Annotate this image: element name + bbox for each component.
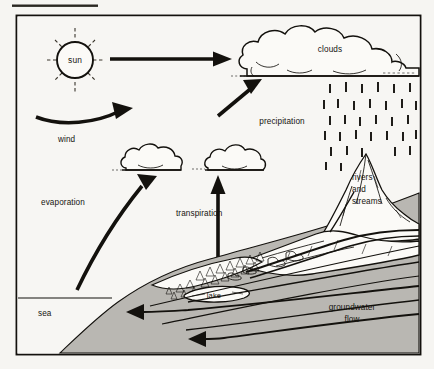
streams-label: streams (352, 197, 382, 206)
flow-label: flow (345, 315, 360, 324)
clouds-label: clouds (318, 45, 342, 54)
top-rule (12, 5, 98, 7)
sun-label: sun (68, 55, 82, 65)
and-label: and (352, 185, 366, 194)
groundwater-label: groundwater (329, 303, 376, 312)
sea-label: sea (38, 309, 52, 318)
wind-label: wind (57, 135, 76, 144)
rivers-label: rivers (352, 173, 373, 182)
evaporation-label: evaporation (41, 198, 85, 207)
transpiration-label: transpiration (176, 209, 223, 218)
diagram-page: sun wind clouds (0, 0, 434, 369)
precipitation-label: precipitation (259, 117, 305, 126)
